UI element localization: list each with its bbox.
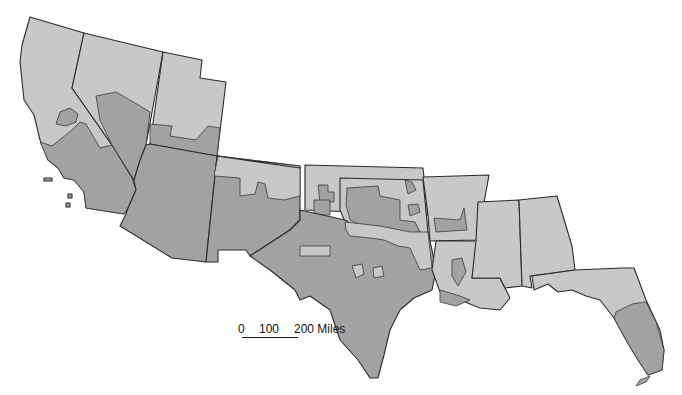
scale-bar: 0 100 200 Miles [238,322,358,338]
scale-label-0: 0 [238,322,245,336]
florida-dark-zone [614,302,664,375]
kansas-dark-block-2 [314,200,330,215]
scale-label-100: 100 [259,322,279,336]
island-2 [68,194,72,198]
florida-keys [636,376,650,386]
island-1 [44,178,52,181]
scale-bar-line [242,337,298,338]
island-3 [66,203,70,207]
texas-light-blob-2 [373,266,384,278]
texas-light-panhandle-strip [300,246,330,256]
scale-label-200: 200 Miles [294,322,345,336]
state-mississippi [472,200,522,288]
